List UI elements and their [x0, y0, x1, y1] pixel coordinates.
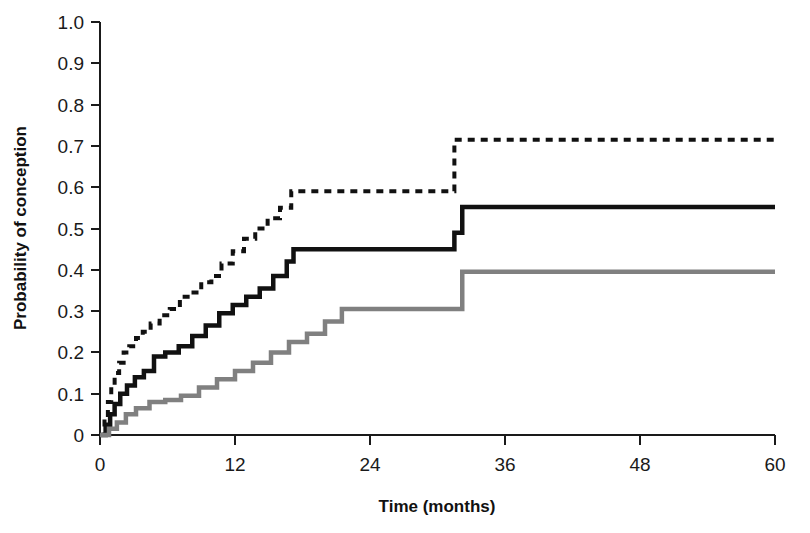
y-tick-label: 0.7 — [58, 136, 84, 157]
x-axis-ticks: 01224364860 — [95, 435, 786, 475]
y-tick-label: 0.3 — [58, 301, 84, 322]
y-axis-title: Probability of conception — [11, 126, 30, 330]
axis-lines — [100, 22, 775, 435]
chart-canvas: 00.10.20.30.40.50.60.70.80.91.0 01224364… — [0, 0, 810, 533]
y-axis-ticks: 00.10.20.30.40.50.60.70.80.91.0 — [58, 12, 100, 446]
x-tick-label: 12 — [224, 454, 245, 475]
x-tick-label: 24 — [359, 454, 381, 475]
y-tick-label: 1.0 — [58, 12, 84, 33]
chart-figure: 00.10.20.30.40.50.60.70.80.91.0 01224364… — [0, 0, 810, 533]
series-line-1 — [100, 207, 775, 435]
x-tick-label: 60 — [764, 454, 785, 475]
y-tick-label: 0 — [73, 425, 84, 446]
y-tick-label: 0.5 — [58, 219, 84, 240]
series-line-2 — [100, 272, 775, 435]
x-tick-label: 36 — [494, 454, 515, 475]
x-tick-label: 0 — [95, 454, 106, 475]
y-tick-label: 0.2 — [58, 342, 84, 363]
y-tick-label: 0.6 — [58, 177, 84, 198]
data-series-group — [100, 140, 775, 435]
y-tick-label: 0.4 — [58, 260, 85, 281]
y-tick-label: 0.1 — [58, 384, 84, 405]
y-tick-label: 0.9 — [58, 53, 84, 74]
y-tick-label: 0.8 — [58, 95, 84, 116]
x-tick-label: 48 — [629, 454, 650, 475]
x-axis-title: Time (months) — [379, 497, 496, 516]
